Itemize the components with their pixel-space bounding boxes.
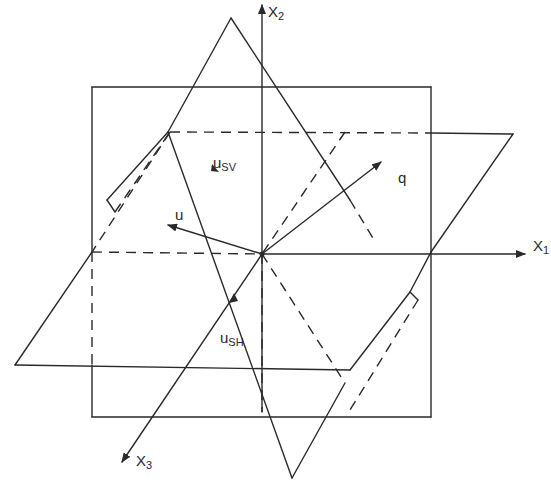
diagram-canvas: [0, 0, 551, 482]
u-vector: [168, 225, 262, 254]
u-label-text: u: [175, 206, 183, 223]
origin-point: [260, 252, 265, 257]
u-sv-label-sub: SV: [221, 161, 236, 173]
x1-label-text: X: [533, 237, 543, 254]
x1-axis-label: X1: [533, 238, 549, 256]
axes: [122, 5, 525, 462]
u-sh-label-sub: SH: [228, 336, 243, 348]
q-label: q: [398, 170, 406, 185]
x1-label-sub: 1: [543, 244, 549, 256]
x3-axis-label: X3: [136, 453, 152, 471]
u-label: u: [175, 207, 183, 222]
u-sh-label: uSH: [220, 330, 244, 348]
u-sv-label: uSV: [213, 155, 236, 173]
q-vector: [262, 162, 381, 254]
x3-axis: [122, 254, 262, 462]
x2-label-sub: 2: [278, 10, 284, 22]
x2-axis-label: X2: [268, 4, 284, 22]
vectors: [168, 162, 381, 303]
q-label-text: q: [398, 169, 406, 186]
u-sh-arrowhead: [229, 293, 238, 303]
x2-label-text: X: [268, 3, 278, 20]
x3-label-sub: 3: [146, 459, 152, 471]
x3-label-text: X: [136, 452, 146, 469]
